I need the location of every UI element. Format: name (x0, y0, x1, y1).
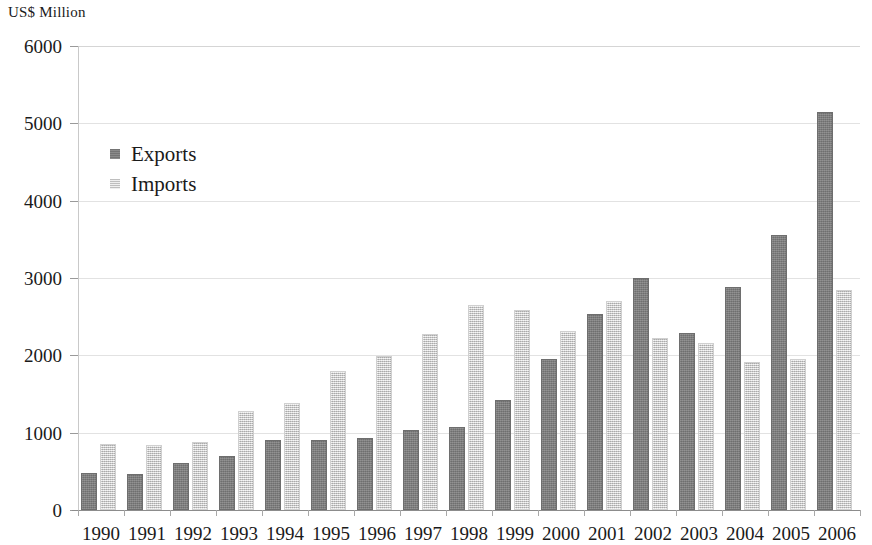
bar-imports (146, 445, 162, 510)
bar-group (170, 46, 216, 510)
bar-group (538, 46, 584, 510)
y-axis-tick-label: 3000 (0, 269, 62, 288)
bar-exports (541, 359, 557, 510)
x-axis-line (72, 510, 860, 511)
y-axis-tick-label: 1000 (0, 423, 62, 442)
x-axis-tick-label: 2000 (535, 524, 587, 543)
x-axis-tick-label: 2005 (765, 524, 817, 543)
y-axis-tick-label: 6000 (0, 37, 62, 56)
bar-imports (422, 334, 438, 510)
legend-item-exports: Exports (110, 139, 196, 169)
legend-swatch-imports-icon (110, 179, 120, 189)
y-axis-tick-label: 0 (0, 501, 62, 520)
x-axis-tick-label: 1999 (489, 524, 541, 543)
bar-exports (173, 463, 189, 510)
bar-group (262, 46, 308, 510)
x-axis-tick-mark (538, 510, 539, 516)
x-axis-tick-label: 2006 (811, 524, 863, 543)
bar-exports (311, 440, 327, 510)
x-axis-tick-label: 1992 (167, 524, 219, 543)
bar-imports (238, 411, 254, 510)
x-axis-tick-mark (722, 510, 723, 516)
x-axis-tick-label: 2001 (581, 524, 633, 543)
x-axis-tick-mark (124, 510, 125, 516)
x-axis-tick-label: 1996 (351, 524, 403, 543)
x-axis-tick-label: 1991 (121, 524, 173, 543)
legend-label-exports: Exports (131, 139, 196, 169)
legend-item-imports: Imports (110, 169, 196, 199)
bar-group (216, 46, 262, 510)
bar-imports (744, 362, 760, 510)
bar-exports (265, 440, 281, 510)
bar-group (78, 46, 124, 510)
bar-exports (219, 456, 235, 510)
x-axis-tick-label: 2002 (627, 524, 679, 543)
bar-imports (606, 301, 622, 510)
bar-imports (376, 356, 392, 510)
x-axis-tick-label: 1993 (213, 524, 265, 543)
bar-group (676, 46, 722, 510)
x-axis-tick-mark (78, 510, 79, 516)
x-axis-tick-label: 1994 (259, 524, 311, 543)
y-axis-units-label: US$ Million (8, 4, 86, 21)
legend-swatch-exports-icon (110, 149, 120, 159)
x-axis-tick-mark (676, 510, 677, 516)
bar-exports (771, 235, 787, 510)
chart-legend: Exports Imports (110, 139, 196, 199)
bar-exports (633, 278, 649, 510)
x-axis-tick-mark (768, 510, 769, 516)
bar-group (308, 46, 354, 510)
x-axis-tick-mark (860, 510, 861, 516)
bar-imports (652, 338, 668, 510)
chart-figure: US$ Million 0100020003000400050006000 19… (0, 0, 872, 545)
bar-group (124, 46, 170, 510)
x-axis-tick-mark (216, 510, 217, 516)
bar-group (814, 46, 860, 510)
x-axis-tick-mark (262, 510, 263, 516)
bar-exports (587, 314, 603, 510)
bar-exports (357, 438, 373, 510)
bar-group (492, 46, 538, 510)
bar-exports (403, 430, 419, 510)
x-axis-tick-mark (814, 510, 815, 516)
bar-imports (560, 331, 576, 510)
x-axis-tick-mark (446, 510, 447, 516)
bar-exports (679, 333, 695, 510)
bar-exports (725, 287, 741, 510)
x-axis-tick-label: 2003 (673, 524, 725, 543)
x-axis-tick-mark (630, 510, 631, 516)
x-axis-tick-mark (492, 510, 493, 516)
bar-exports (817, 112, 833, 510)
bar-imports (330, 371, 346, 510)
y-axis-tick-label: 4000 (0, 191, 62, 210)
bar-exports (449, 427, 465, 510)
x-axis-tick-label: 1995 (305, 524, 357, 543)
bar-imports (514, 310, 530, 510)
bar-group (354, 46, 400, 510)
x-axis-tick-mark (170, 510, 171, 516)
plot-area: 1990199119921993199419951996199719981999… (78, 46, 860, 510)
x-axis-tick-mark (584, 510, 585, 516)
x-axis-tick-label: 2004 (719, 524, 771, 543)
x-axis-tick-mark (354, 510, 355, 516)
bar-imports (468, 305, 484, 510)
x-axis-tick-label: 1998 (443, 524, 495, 543)
bar-exports (495, 400, 511, 510)
y-axis-tick-label: 5000 (0, 114, 62, 133)
x-axis-tick-mark (308, 510, 309, 516)
y-axis-tick-label: 2000 (0, 346, 62, 365)
bar-imports (790, 359, 806, 510)
legend-label-imports: Imports (131, 169, 196, 199)
bar-group (446, 46, 492, 510)
bar-group (400, 46, 446, 510)
x-axis-tick-label: 1990 (75, 524, 127, 543)
bar-group (768, 46, 814, 510)
bar-imports (284, 403, 300, 510)
x-axis-tick-label: 1997 (397, 524, 449, 543)
bar-exports (127, 474, 143, 510)
x-axis-tick-mark (400, 510, 401, 516)
bar-imports (100, 444, 116, 511)
bar-imports (698, 343, 714, 510)
bar-group (722, 46, 768, 510)
bar-imports (836, 290, 852, 510)
